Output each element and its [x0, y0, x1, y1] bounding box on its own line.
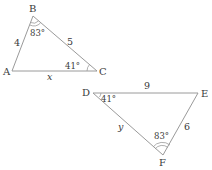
similar-triangles-diagram: B A C 4 5 x 83° 41° D E F 9 6 y 41° 83° [0, 0, 212, 170]
angle-c-arc [87, 65, 90, 72]
side-label-de: 9 [144, 80, 150, 91]
angle-b-arc-1 [31, 21, 39, 23]
vertex-label-e: E [201, 88, 208, 99]
angle-label-b: 83° [30, 28, 45, 38]
angle-label-f: 83° [154, 131, 169, 141]
angle-f-arc-1 [155, 145, 168, 149]
vertex-label-b: B [29, 3, 36, 14]
vertex-label-c: C [99, 66, 107, 77]
vertex-label-f: F [159, 157, 166, 168]
angle-label-d: 41° [101, 94, 116, 104]
angle-label-c: 41° [65, 61, 80, 71]
side-label-ef: 6 [184, 121, 190, 132]
vertex-label-d: D [82, 87, 90, 98]
triangle-def: D E F 9 6 y 41° 83° [82, 80, 208, 168]
side-label-bc: 5 [67, 36, 73, 47]
vertex-label-a: A [2, 66, 11, 77]
triangle-abc-outline [12, 16, 97, 71]
side-label-ab: 4 [14, 37, 20, 48]
side-label-ac: x [47, 71, 53, 82]
triangle-abc: B A C 4 5 x 83° 41° [2, 3, 107, 82]
side-label-df: y [117, 121, 124, 132]
